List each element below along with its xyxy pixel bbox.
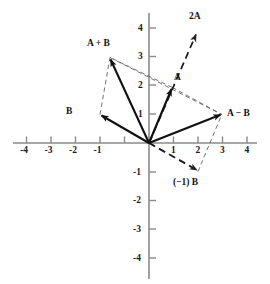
x-tick-label-3: 3 [220,146,225,156]
x-tick-label-4: 4 [245,146,250,156]
vector-label-a: A [174,73,181,83]
y-tick-label-minus4: -4 [133,254,141,264]
x-tick-label-minus2: -2 [69,146,77,156]
solid-vectors [102,60,221,144]
x-tick-label-2: 2 [196,146,201,156]
x-tick-label-minus1: -1 [94,146,102,156]
y-tick-label-3: 3 [138,52,143,62]
x-tick-label-minus4: -4 [20,146,28,156]
vector-diagram-figure: -4 -3 -2 -1 1 2 3 4 4 3 2 1 -1 -2 -3 -4 … [0,0,270,284]
vector-label-2a: 2A [189,12,201,22]
y-tick-label-2: 2 [138,81,143,91]
vector-label-negative-one-b: (−1) B [173,178,198,188]
x-axis-ticks [27,137,248,144]
vector-label-a-minus-b: A − B [227,109,250,119]
x-tick-label-minus3: -3 [45,146,53,156]
construction-line-a-to-diff [172,87,222,114]
y-tick-label-1: 1 [138,110,143,120]
plot-canvas [0,0,270,284]
y-tick-label-minus3: -3 [133,225,141,235]
vector-label-b: B [66,107,72,117]
y-tick-label-minus1: -1 [133,168,141,178]
y-tick-label-4: 4 [138,24,143,34]
vector-a-plus-b [111,60,149,144]
y-tick-label-minus2: -2 [133,196,141,206]
vector-label-a-plus-b: A + B [87,39,110,49]
x-tick-label-1: 1 [171,146,176,156]
construction-line-b-to-sum [100,58,110,115]
